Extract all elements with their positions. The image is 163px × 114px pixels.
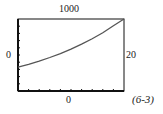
plot-area bbox=[0, 0, 163, 114]
axis-ticks bbox=[18, 26, 113, 91]
data-curve bbox=[18, 19, 124, 67]
